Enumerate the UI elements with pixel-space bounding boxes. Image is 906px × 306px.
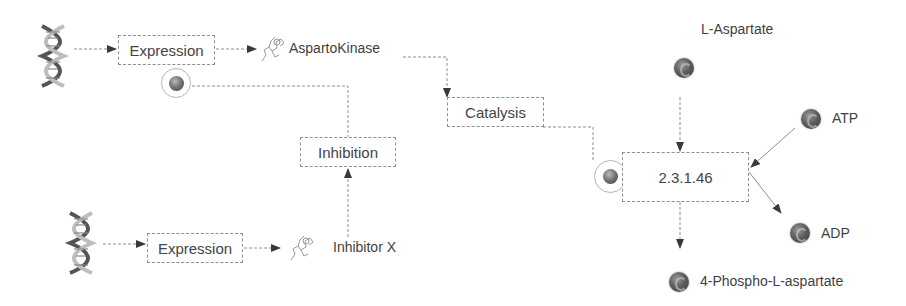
protein-molecule-icon bbox=[288, 232, 316, 264]
l-aspartate-label[interactable]: L-Aspartate bbox=[701, 21, 773, 37]
compound-icon[interactable] bbox=[790, 223, 810, 243]
compound-icon[interactable] bbox=[674, 58, 694, 78]
dna-icon bbox=[36, 24, 74, 88]
inhibition-box[interactable]: Inhibition bbox=[300, 137, 396, 167]
expression-bottom-box[interactable]: Expression bbox=[147, 233, 243, 263]
edge-inhibition-to-expression bbox=[192, 86, 348, 137]
expression-top-box[interactable]: Expression bbox=[118, 35, 215, 65]
compound-icon[interactable] bbox=[801, 109, 821, 129]
edge-catalysis-to-reaction bbox=[543, 127, 593, 162]
catalysis-box[interactable]: Catalysis bbox=[447, 97, 544, 127]
modifier-icon bbox=[169, 76, 184, 91]
aspartokinase-label[interactable]: AspartoKinase bbox=[289, 40, 380, 56]
inhibition-label: Inhibition bbox=[318, 144, 378, 161]
edge-atp-to-reaction bbox=[751, 128, 795, 167]
edge-reaction-to-adp bbox=[749, 172, 781, 213]
inhibition-modifier-node[interactable] bbox=[161, 68, 191, 98]
compound-icon[interactable] bbox=[669, 272, 689, 292]
inhibitor-x-label[interactable]: Inhibitor X bbox=[333, 239, 396, 255]
adp-label[interactable]: ADP bbox=[821, 225, 850, 241]
catalysis-label: Catalysis bbox=[465, 104, 526, 121]
reaction-ec-label: 2.3.1.46 bbox=[658, 169, 712, 186]
edge-aspartokinase-to-catalysis bbox=[403, 57, 447, 97]
phospho-aspartate-label[interactable]: 4-Phospho-L-aspartate bbox=[700, 273, 843, 289]
reaction-box[interactable]: 2.3.1.46 bbox=[622, 152, 749, 202]
protein-molecule-icon bbox=[259, 33, 287, 65]
expression-bottom-label: Expression bbox=[158, 240, 232, 257]
atp-label[interactable]: ATP bbox=[832, 110, 858, 126]
dna-icon bbox=[64, 211, 102, 275]
modifier-icon bbox=[603, 169, 618, 184]
expression-top-label: Expression bbox=[129, 42, 203, 59]
